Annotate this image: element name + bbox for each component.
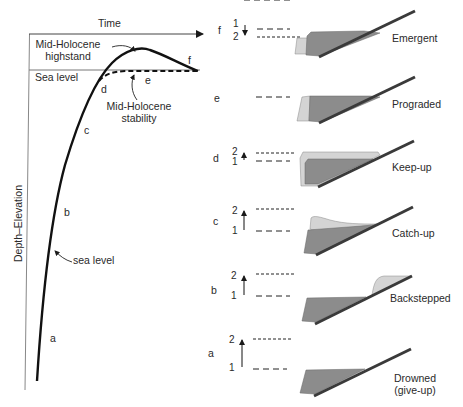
scenario-backstepped-graphic [244,274,412,324]
stage-label-b: b [64,206,70,218]
highstand-label-line1: Mid-Holocene [34,38,102,50]
scenario-d-stage: d [213,152,219,164]
scenario-f-stage: f [218,24,221,36]
scenario-b-mark-1: 1 [231,290,237,302]
scenario-c-mark-1: 1 [232,225,238,237]
sea-level-label: Sea level [35,71,78,83]
stability-label-line2: stability [104,112,174,124]
stability-label-line1: Mid-Holocene [104,100,174,112]
scenario-b-stage: b [211,284,217,296]
scenario-emergent-label: Emergent [392,32,438,44]
depth-elevation-axis-label: Depth–Elevation [12,185,24,262]
scenario-a-mark-2: 2 [229,334,235,346]
stability-label: Mid-Holocene stability [104,100,174,124]
sea-level-curve-label: sea level [73,254,114,266]
scenario-catchup-label: Catch-up [392,227,435,239]
scenario-d-mark-1: 1 [232,156,238,168]
scenario-e-stage: e [214,92,220,104]
scenario-keepup-graphic [244,141,414,187]
scenario-a-mark-1: 1 [229,362,235,374]
stage-label-d: d [101,83,107,95]
scenario-drowned-label-line2: (give-up) [384,384,446,396]
scenario-catchup-graphic [244,207,413,255]
highstand-label: Mid-Holocene highstand [34,38,102,62]
scenario-c-stage: c [213,215,218,227]
scenario-emergent-graphic [244,0,415,57]
scenario-prograded-label: Prograded [392,98,441,110]
scenario-backstepped-label: Backstepped [390,292,451,304]
stage-label-f: f [188,54,191,66]
stage-label-c: c [84,124,89,136]
time-axis-label: Time [98,17,121,29]
scenario-drowned-label-line1: Drowned [384,372,446,384]
sea-level-curve [37,49,198,381]
curve-label-arrow [55,251,72,262]
scenario-f-mark-1: 1 [233,18,239,30]
scenario-drowned-label: Drowned (give-up) [384,372,446,396]
stage-label-a: a [50,332,56,344]
stability-arrow [132,75,137,100]
highstand-label-line2: highstand [34,50,102,62]
scenario-a-stage: a [208,347,214,359]
stage-label-e: e [145,74,151,86]
y-axis [25,34,30,390]
scenario-b-mark-2: 2 [231,270,237,282]
scenario-keepup-label: Keep-up [392,161,432,173]
scenario-c-mark-2: 2 [232,205,238,217]
scenario-f-mark-2: 2 [233,31,239,43]
